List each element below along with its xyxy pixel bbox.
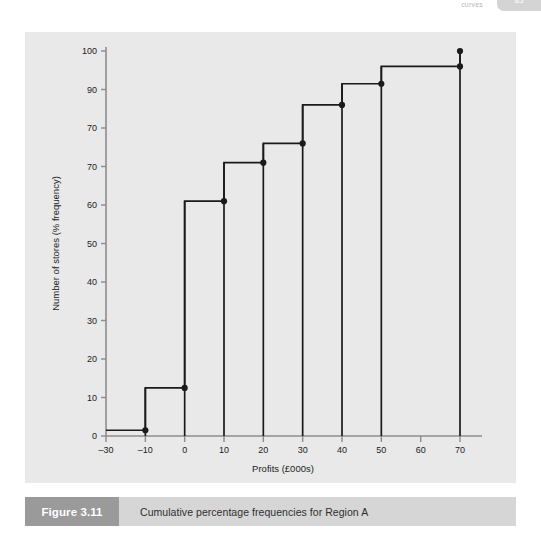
- data-point-marker: [260, 160, 266, 166]
- y-axis-tick-label: 90: [87, 85, 97, 95]
- data-point-marker: [457, 63, 463, 69]
- running-header-text: curves: [461, 1, 497, 8]
- data-point-marker: [378, 81, 384, 87]
- y-axis-tick-label: 100: [82, 46, 97, 56]
- plot-area: 0102030405060707090100–30–10010203040506…: [25, 32, 516, 483]
- y-axis-tick-label: 70: [87, 123, 97, 133]
- y-axis-tick-label: 50: [87, 239, 97, 249]
- x-axis-tick-label: 30: [298, 445, 308, 455]
- figure-caption-bar: Figure 3.11 Cumulative percentage freque…: [25, 497, 516, 526]
- figure-page: curves 85 0102030405060707090100–30–1001…: [0, 0, 541, 549]
- cumulative-frequency-chart: 0102030405060707090100–30–10010203040506…: [25, 32, 516, 483]
- chart-panel: 0102030405060707090100–30–10010203040506…: [25, 32, 516, 483]
- x-axis-tick-label: 0: [182, 445, 187, 455]
- y-axis-tick-label: 20: [87, 354, 97, 364]
- x-axis-tick-label: –30: [98, 445, 113, 455]
- x-axis-tick-label: 70: [455, 445, 465, 455]
- data-point-marker: [300, 140, 306, 146]
- cumulative-step-line: [106, 51, 460, 430]
- figure-number: Figure 3.11: [25, 497, 119, 526]
- x-axis-tick-label: 40: [337, 445, 347, 455]
- y-axis-tick-label: 40: [87, 277, 97, 287]
- running-header: curves 85: [461, 0, 541, 16]
- y-axis-tick-label: 0: [92, 431, 97, 441]
- x-axis-title: Profits (£000s): [252, 463, 314, 474]
- x-axis-tick-label: –10: [138, 445, 153, 455]
- page-number-badge: 85: [497, 0, 541, 11]
- data-point-marker: [457, 48, 463, 54]
- x-axis-tick-label: 60: [416, 445, 426, 455]
- y-axis-tick-label: 10: [87, 393, 97, 403]
- y-axis-title: Number of stores (% frequency): [50, 176, 61, 311]
- data-point-marker: [339, 102, 345, 108]
- x-axis-tick-label: 20: [258, 445, 268, 455]
- x-axis-tick-label: 10: [219, 445, 229, 455]
- data-point-marker: [221, 198, 227, 204]
- y-axis-tick-label: 30: [87, 316, 97, 326]
- data-point-marker: [182, 385, 188, 391]
- figure-caption-text: Cumulative percentage frequencies for Re…: [119, 497, 516, 526]
- x-axis-tick-label: 50: [376, 445, 386, 455]
- data-point-marker: [142, 427, 148, 433]
- y-axis-tick-label: 70: [87, 162, 97, 172]
- y-axis-tick-label: 60: [87, 200, 97, 210]
